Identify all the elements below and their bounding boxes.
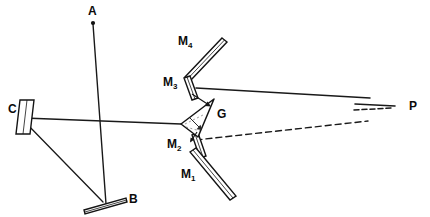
label-m3-sub: 3 [173, 82, 177, 91]
label-m2-sub: 2 [177, 144, 181, 153]
label-m4-sub: 4 [188, 41, 192, 50]
label-m4-base: M [178, 34, 188, 48]
ray-segment-p-solid [355, 104, 395, 106]
label-p: P [409, 100, 417, 112]
label-m1: M1 [181, 168, 195, 180]
label-a: A [88, 5, 97, 17]
ray-m2-to-p [196, 121, 368, 140]
diagram-canvas [0, 0, 430, 217]
ray-segment-p-dashed [354, 108, 393, 110]
ray-m3-to-p [196, 88, 370, 98]
label-m3-base: M [163, 75, 173, 89]
label-g: G [217, 108, 226, 120]
ray-c-to-g [24, 118, 181, 124]
label-m2-base: M [167, 137, 177, 151]
label-m3: M3 [163, 76, 177, 88]
ray-a-to-b [93, 24, 106, 204]
ray-c-to-b [25, 122, 103, 202]
label-m1-sub: 1 [191, 174, 195, 183]
label-m2: M2 [167, 138, 181, 150]
label-c: C [8, 103, 17, 115]
source-point-a [91, 21, 95, 25]
mirror-c [16, 100, 34, 134]
optical-diagram-figure: A B C G P M1 M2 M3 M4 [0, 0, 430, 217]
label-b: B [129, 193, 138, 205]
mirror-m1 [190, 148, 236, 200]
label-m1-base: M [181, 167, 191, 181]
label-m4: M4 [178, 35, 192, 47]
ray-arrow-m3-to-g [192, 94, 211, 106]
